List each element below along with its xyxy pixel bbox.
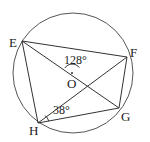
segment-HE [22, 41, 38, 123]
segment-EG [22, 41, 119, 108]
label-G: G [121, 109, 130, 124]
segment-GH [38, 108, 119, 123]
segment-FG [119, 57, 127, 108]
label-F: F [130, 45, 137, 60]
angle-label-H: 38° [53, 103, 70, 117]
label-O: O [67, 76, 76, 91]
angle-label-O: 128° [64, 53, 87, 67]
point-O-dot [71, 72, 73, 74]
label-E: E [9, 35, 17, 50]
geometry-diagram: E F G H O 128° 38° [0, 0, 150, 142]
label-H: H [29, 123, 38, 138]
